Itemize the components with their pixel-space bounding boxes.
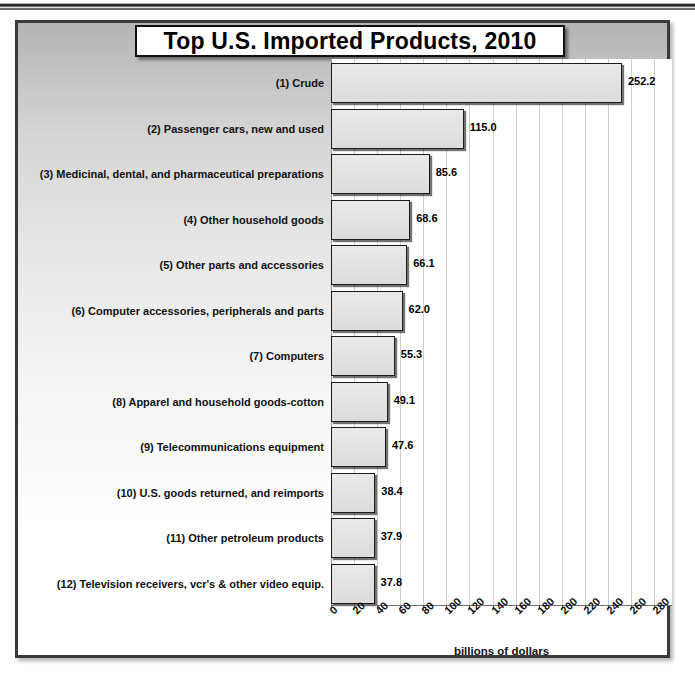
category-label: (12) Television receivers, vcr's & other…: [57, 564, 324, 604]
bar-row[interactable]: 37.9: [331, 518, 672, 558]
bar-row[interactable]: 85.6: [331, 154, 672, 194]
category-label: (3) Medicinal, dental, and pharmaceutica…: [40, 154, 324, 194]
bar-value-label: 38.4: [381, 485, 402, 497]
bar-row[interactable]: 115.0: [331, 109, 672, 149]
category-label: (1) Crude: [276, 63, 324, 103]
bar[interactable]: [331, 109, 464, 149]
bar-value-label: 47.6: [392, 439, 413, 451]
bar-row[interactable]: 252.2: [331, 63, 672, 103]
bar[interactable]: [331, 564, 375, 604]
page-header-rule-secondary: [0, 8, 695, 10]
bar-row[interactable]: 62.0: [331, 291, 672, 331]
bar-value-label: 252.2: [628, 75, 656, 87]
bar[interactable]: [331, 518, 375, 558]
bar[interactable]: [331, 427, 386, 467]
category-label: (6) Computer accessories, peripherals an…: [72, 291, 324, 331]
category-label: (9) Telecommunications equipment: [140, 427, 324, 467]
page-title: Top U.S. Imported Products, 2010: [164, 28, 537, 55]
bar[interactable]: [331, 245, 407, 285]
chart-title-plaque: Top U.S. Imported Products, 2010: [135, 25, 565, 57]
bar-value-label: 37.8: [381, 576, 402, 588]
bar[interactable]: [331, 473, 375, 513]
chart-frame: Top U.S. Imported Products, 2010 (1) Cru…: [15, 20, 670, 658]
x-axis-title: billions of dollars: [331, 645, 672, 657]
bar-value-label: 62.0: [409, 303, 430, 315]
category-label: (2) Passenger cars, new and used: [147, 109, 324, 149]
bar-series: 252.2115.085.668.666.162.055.349.147.638…: [331, 59, 672, 606]
bar-value-label: 55.3: [401, 348, 422, 360]
bar-value-label: 68.6: [416, 212, 437, 224]
bar[interactable]: [331, 382, 388, 422]
bar-row[interactable]: 38.4: [331, 473, 672, 513]
bar[interactable]: [331, 154, 430, 194]
category-label: (5) Other parts and accessories: [160, 245, 324, 285]
category-axis-labels: (1) Crude(2) Passenger cars, new and use…: [23, 59, 328, 606]
bar-value-label: 66.1: [413, 257, 434, 269]
bar-row[interactable]: 49.1: [331, 382, 672, 422]
x-axis-ticks: 020406080100120140160180200220240260280: [331, 608, 691, 648]
bar[interactable]: [331, 291, 403, 331]
category-label: (11) Other petroleum products: [166, 518, 324, 558]
category-label: (4) Other household goods: [183, 200, 324, 240]
category-label: (7) Computers: [249, 336, 324, 376]
bar-row[interactable]: 47.6: [331, 427, 672, 467]
bar-value-label: 49.1: [394, 394, 415, 406]
bar-row[interactable]: 68.6: [331, 200, 672, 240]
bar-row[interactable]: 66.1: [331, 245, 672, 285]
bar-value-label: 115.0: [470, 121, 497, 133]
bar-value-label: 37.9: [381, 530, 402, 542]
category-label: (8) Apparel and household goods-cotton: [112, 382, 324, 422]
bar[interactable]: [331, 200, 410, 240]
category-label: (10) U.S. goods returned, and reimports: [117, 473, 324, 513]
plot-area: 252.2115.085.668.666.162.055.349.147.638…: [331, 59, 672, 606]
bar[interactable]: [331, 63, 622, 103]
bar-row[interactable]: 55.3: [331, 336, 672, 376]
bar-value-label: 85.6: [436, 166, 457, 178]
bar[interactable]: [331, 336, 395, 376]
